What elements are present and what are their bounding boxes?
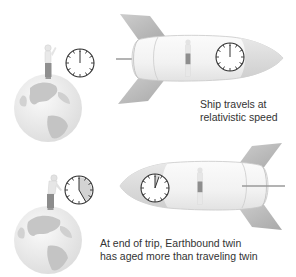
traveling-twin-person-icon — [197, 167, 202, 204]
earth-globe-icon — [14, 206, 82, 274]
caption-line: Ship travels at — [200, 98, 278, 111]
rocket-icon — [116, 14, 283, 104]
return-caption: At end of trip, Earthbound twin has aged… — [100, 237, 258, 263]
earthbound-twin-person-icon — [47, 175, 62, 210]
earth-globe-icon — [14, 74, 82, 142]
earth-clock-icon — [66, 49, 94, 77]
caption-line: At end of trip, Earthbound twin — [100, 237, 258, 250]
departure-caption: Ship travels at relativistic speed — [200, 98, 278, 124]
traveling-twin-person-icon — [185, 39, 190, 76]
caption-line: relativistic speed — [200, 111, 278, 124]
earthbound-twin-person-icon — [45, 45, 57, 79]
ship-clock-icon — [141, 174, 169, 202]
ship-clock-icon — [216, 43, 244, 71]
earth-clock-icon — [65, 176, 93, 204]
caption-line: has aged more than traveling twin — [100, 250, 258, 263]
twin-paradox-diagram — [0, 0, 296, 277]
